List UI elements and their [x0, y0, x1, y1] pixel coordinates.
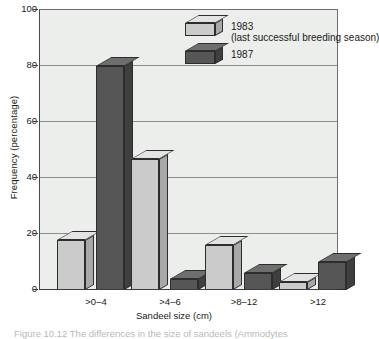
bar-front-face	[57, 240, 85, 290]
bar-top-face	[131, 150, 175, 159]
legend-label-1987: 1987	[231, 49, 253, 60]
y-tick-mark-60	[33, 121, 38, 122]
y-axis-title: Frequency (percentage)	[8, 63, 19, 233]
bar-side-face	[159, 154, 168, 290]
y-tick-mark-20	[33, 233, 38, 234]
bar-front-face	[205, 245, 233, 290]
bar-front-face	[131, 159, 159, 290]
legend-swatch-front	[185, 51, 215, 64]
bar-1987-gt12	[318, 262, 346, 290]
bar-top-face	[205, 236, 249, 245]
bar-1983-gt4-6	[131, 159, 159, 290]
legend-sublabel-1983: (last successful breeding season)	[231, 32, 379, 43]
gridline-60	[40, 121, 337, 122]
x-axis-title: Sandeel size (cm)	[0, 310, 348, 321]
gridline-40	[40, 177, 337, 178]
bar-1983-gt0-4	[57, 240, 85, 290]
x-tick-label-gt12: >12	[310, 296, 326, 307]
bar-top-face	[244, 264, 288, 273]
legend-swatch-front	[185, 23, 215, 36]
legend-label-1983: 1983	[231, 21, 379, 32]
y-tick-mark-80	[33, 65, 38, 66]
gridline-80	[40, 65, 337, 66]
legend-label-1983-group: 1983 (last successful breeding season)	[231, 21, 379, 43]
bar-1983-gt8-12	[205, 245, 233, 290]
bar-side-face	[346, 257, 355, 290]
x-tick-label-gt8-12: >8–12	[231, 296, 258, 307]
plot-area: 1983 (last successful breeding season) 1…	[39, 9, 338, 290]
legend-swatch-1987	[185, 51, 223, 64]
y-tick-mark-100	[33, 9, 38, 10]
bar-1987-gt8-12	[244, 273, 272, 290]
bar-front-face	[96, 66, 124, 290]
x-tick-label-gt0-4: >0–4	[85, 296, 106, 307]
x-tick-label-gt4-6: >4–6	[159, 296, 180, 307]
bar-side-face	[85, 235, 94, 290]
legend-swatch-1983	[185, 23, 223, 36]
bar-front-face	[318, 262, 346, 290]
figure-caption: Figure 10.12 The differences in the size…	[14, 328, 344, 339]
bar-side-face	[233, 240, 242, 290]
bar-top-face	[318, 253, 362, 262]
x-axis-line	[39, 289, 338, 290]
y-tick-mark-40	[33, 177, 38, 178]
y-tick-mark-0	[33, 289, 38, 290]
bar-1987-gt0-4	[96, 66, 124, 290]
bar-front-face	[244, 273, 272, 290]
bar-top-face	[279, 273, 323, 282]
